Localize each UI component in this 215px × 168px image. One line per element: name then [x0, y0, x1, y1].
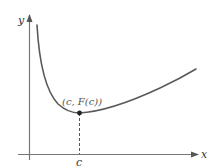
x-axis-label: x — [201, 148, 208, 161]
function-curve — [37, 25, 196, 113]
tick-label-c: c — [76, 156, 82, 168]
y-axis-label: y — [17, 14, 25, 27]
minimum-point-dot — [77, 111, 82, 116]
minimum-point-label: (c, F(c)) — [62, 96, 102, 107]
function-graph: y x (c, F(c)) c — [0, 0, 215, 168]
